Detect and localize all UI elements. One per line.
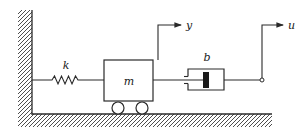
mass-label: m <box>124 75 134 88</box>
spring-coil <box>32 76 104 84</box>
damper-piston <box>203 72 209 88</box>
damper-label: b <box>203 51 210 64</box>
input-node <box>260 78 264 82</box>
ground-hatching <box>32 114 272 127</box>
spring-label: k <box>63 59 70 72</box>
wheel-right <box>136 102 148 114</box>
u-arrow-icon <box>262 25 283 78</box>
wheel-left <box>112 102 124 114</box>
wall <box>18 10 32 127</box>
spring: k <box>32 59 104 84</box>
u-label: u <box>288 19 295 32</box>
y-label: y <box>185 19 193 32</box>
damper: b <box>153 51 260 90</box>
y-arrow-icon <box>158 25 181 60</box>
mass-displacement-arrow: y <box>158 19 193 60</box>
input-displacement-arrow: u <box>260 19 295 82</box>
mass-spring-damper-diagram: k m y b u <box>0 0 306 134</box>
wall-hatching <box>18 10 32 127</box>
mass: m <box>104 60 153 114</box>
ground <box>32 114 273 127</box>
